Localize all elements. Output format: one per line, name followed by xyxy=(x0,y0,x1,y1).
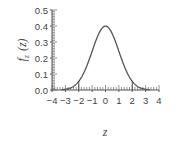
y-tick-label: 0.2 xyxy=(35,53,48,64)
x-axis-label: z xyxy=(102,125,108,139)
y-tick-label: 0.1 xyxy=(35,69,48,80)
x-tick-label: −2 xyxy=(73,95,84,106)
y-axis: 0.00.10.20.30.40.5 xyxy=(35,5,57,96)
normal-pdf-chart: 0.00.10.20.30.40.5 −4−3−2−101234 fz (z) … xyxy=(0,0,178,150)
y-tick-label: 0.4 xyxy=(35,21,48,32)
y-axis-label: fz (z) xyxy=(15,38,31,61)
y-tick-label: 0.3 xyxy=(35,37,48,48)
y-tick-label: 0.0 xyxy=(35,85,48,96)
svg-text:fz (z): fz (z) xyxy=(15,38,31,61)
y-tick-label: 0.5 xyxy=(35,5,48,16)
x-tick-label: 0 xyxy=(103,95,108,106)
x-tick-label: 2 xyxy=(130,95,135,106)
x-tick-label: 4 xyxy=(156,95,161,106)
x-tick-label: 3 xyxy=(143,95,148,106)
x-axis: −4−3−2−101234 xyxy=(47,85,162,106)
x-tick-label: 1 xyxy=(116,95,121,106)
pdf-curve xyxy=(61,26,149,90)
x-tick-label: −3 xyxy=(60,95,71,106)
x-tick-label: −1 xyxy=(87,95,98,106)
x-tick-label: −4 xyxy=(47,95,58,106)
